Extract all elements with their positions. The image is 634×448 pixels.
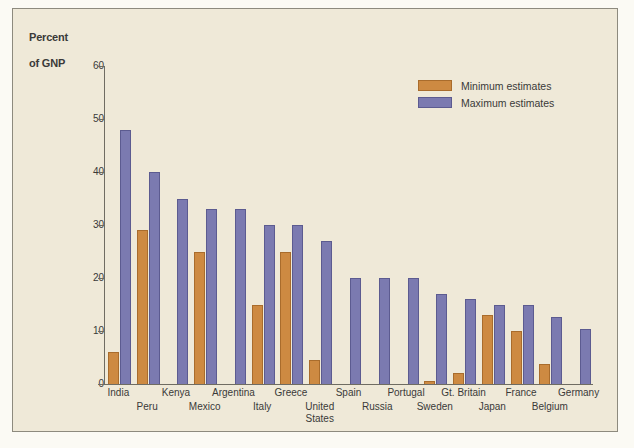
bar-group	[566, 66, 591, 384]
min-swatch	[418, 80, 452, 91]
bar	[309, 360, 320, 384]
y-axis-title-line2: of GNP	[29, 57, 65, 69]
bar-group	[365, 66, 390, 384]
y-axis-title-line1: Percent	[29, 31, 68, 43]
bar	[523, 305, 534, 385]
x-axis-line	[104, 384, 593, 385]
bar	[424, 381, 435, 384]
bar	[551, 317, 562, 384]
bar	[465, 299, 476, 384]
bar-series-container	[104, 66, 593, 384]
y-tick-mark	[98, 384, 104, 385]
x-axis-category-labels: IndiaPeruKenyaMexicoArgentinaItalyGreece…	[104, 387, 593, 433]
bar	[494, 305, 505, 385]
bar	[321, 241, 332, 384]
legend-item: Minimum estimates	[418, 77, 554, 94]
bar	[482, 315, 493, 384]
bar	[350, 278, 361, 384]
max-swatch	[418, 97, 452, 108]
bar	[137, 230, 148, 384]
bar-group	[422, 66, 447, 384]
bar	[108, 352, 119, 384]
bar-group	[135, 66, 160, 384]
bar	[264, 225, 275, 384]
bar-group	[163, 66, 188, 384]
bar	[379, 278, 390, 384]
bar	[580, 329, 591, 384]
bar	[194, 252, 205, 385]
chart-legend: Minimum estimatesMaximum estimates	[418, 77, 554, 111]
legend-item-label: Minimum estimates	[461, 80, 551, 92]
bar-group	[336, 66, 361, 384]
bar	[436, 294, 447, 384]
legend-item-label: Maximum estimates	[461, 97, 554, 109]
x-axis-category-label: Belgium	[515, 401, 585, 413]
bar	[252, 305, 263, 385]
bar	[408, 278, 419, 384]
bar-group	[451, 66, 476, 384]
chart-figure: Percent of GNP 0102030405060 IndiaPeruKe…	[0, 0, 634, 448]
bar-group	[250, 66, 275, 384]
bar	[292, 225, 303, 384]
bar	[206, 209, 217, 384]
bar-group	[394, 66, 419, 384]
bar	[453, 373, 464, 384]
x-axis-category-label: Germany	[544, 387, 614, 399]
legend-item: Maximum estimates	[418, 94, 554, 111]
bar	[539, 364, 550, 384]
y-axis-title: Percent of GNP	[29, 18, 68, 70]
bar-group	[192, 66, 217, 384]
bar	[120, 130, 131, 384]
bar	[235, 209, 246, 384]
chart-frame: Percent of GNP 0102030405060 IndiaPeruKe…	[12, 8, 618, 432]
bar-group	[307, 66, 332, 384]
bar-group	[537, 66, 562, 384]
bar-group	[480, 66, 505, 384]
bar	[511, 331, 522, 384]
bar	[149, 172, 160, 384]
bar-group	[278, 66, 303, 384]
bar	[177, 199, 188, 385]
plot-area: Percent of GNP 0102030405060 IndiaPeruKe…	[13, 9, 619, 433]
bar-group	[106, 66, 131, 384]
bar-group	[509, 66, 534, 384]
bar-group	[221, 66, 246, 384]
bar	[280, 252, 291, 385]
